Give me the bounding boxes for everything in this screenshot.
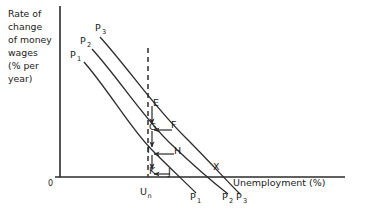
curve-label-p1-sub: 1 (77, 55, 81, 63)
x-axis-title: Unemployment (%) (233, 177, 325, 188)
natural-rate-label-base: U (140, 186, 147, 197)
curve-bottom-p1-sub: 1 (197, 197, 201, 205)
curve-p1 (84, 62, 196, 193)
phillips-curve-figure: Rate of change of money wages (% per yea… (0, 0, 365, 219)
point-label-k: K (149, 165, 156, 176)
point-label-j: J (167, 166, 171, 177)
y-axis-label-line-1: change (8, 21, 42, 32)
phillips-curve-svg: Rate of change of money wages (% per yea… (0, 0, 365, 219)
curve-top-label-p2: P 2 (80, 35, 91, 49)
curve-bottom-label-p1: P 1 (190, 191, 201, 205)
curve-bottom-label-p2: P 2 (222, 191, 233, 205)
y-axis-label: Rate of change of money wages (% per yea… (8, 8, 52, 84)
point-label-i: I (147, 144, 150, 155)
curve-p2 (92, 49, 228, 194)
y-axis-label-line-0: Rate of (8, 8, 42, 19)
point-label-g: G (149, 121, 156, 132)
y-axis-label-line-5: year) (8, 73, 32, 84)
point-label-h: H (174, 145, 181, 156)
curve-bottom-p2-sub: 2 (229, 197, 233, 205)
curve-label-p2-sub: 2 (87, 41, 91, 49)
natural-rate-label: U n (140, 186, 152, 200)
curve-bottom-label-p3: P 3 (236, 191, 247, 205)
point-label-x: X (213, 161, 220, 172)
point-label-f: F (171, 119, 176, 130)
curve-label-p2-base: P (80, 35, 86, 46)
curve-bottom-p2-base: P (222, 191, 228, 202)
origin-label: 0 (48, 179, 53, 188)
y-axis-label-line-4: (% per (8, 60, 39, 71)
y-axis-label-line-2: of money (8, 34, 52, 45)
point-label-e: E (153, 97, 159, 108)
natural-rate-label-sub: n (148, 192, 152, 200)
curve-bottom-p1-base: P (190, 191, 196, 202)
curve-label-p3-base: P (95, 22, 101, 33)
curve-bottom-p3-base: P (236, 191, 242, 202)
curve-label-p1-base: P (70, 49, 76, 60)
curve-label-p3-sub: 3 (102, 28, 106, 36)
curve-bottom-p3-sub: 3 (243, 197, 247, 205)
curve-top-label-p1: P 1 (70, 49, 81, 63)
curve-top-label-p3: P 3 (95, 22, 106, 36)
y-axis-label-line-3: wages (8, 47, 38, 58)
